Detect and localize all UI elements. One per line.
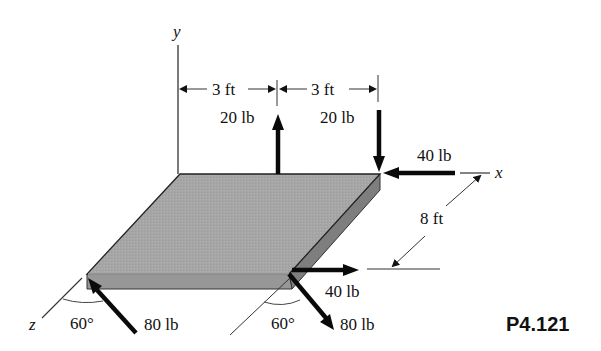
label-20lb-down: 20 lb [320,108,354,127]
plate-force-diagram: y 3 ft 3 ft 20 lb 20 lb 40 lb [0,0,601,351]
label-80lb-left: 80 lb [144,315,178,334]
z-axis-label: z [28,315,36,334]
x-axis: x [460,163,503,182]
angle-left: 60° [70,314,94,333]
dim-left-span: 3 ft [212,80,235,99]
y-axis-label: y [171,22,181,41]
x-axis-label: x [494,163,503,182]
force-40lb-front: 40 lb [292,264,359,301]
force-40lb-back: 40 lb [383,146,455,179]
angle-right: 60° [271,314,295,333]
depth-dimension: 8 ft [367,176,480,269]
y-axis: y [171,22,181,174]
label-80lb-right: 80 lb [340,315,374,334]
label-40lb-front: 40 lb [325,282,359,301]
top-dimensions: 3 ft 3 ft [181,75,378,106]
problem-number: P4.121 [506,313,569,335]
dim-right-span: 3 ft [311,80,334,99]
force-20lb-up: 20 lb [220,108,284,174]
label-20lb-up: 20 lb [220,108,254,127]
force-20lb-down: 20 lb [320,108,385,172]
label-40lb-back: 40 lb [417,146,451,165]
dim-depth: 8 ft [420,209,443,228]
